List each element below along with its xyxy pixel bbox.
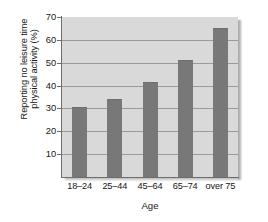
y-axis-tick-labels: 70605040302010 [10, 0, 56, 222]
y-tick-mark-30 [57, 108, 61, 109]
bar [72, 107, 87, 177]
y-tick-mark-60 [57, 40, 61, 41]
bar [143, 82, 158, 177]
bar-chart-figure: Reporting no leisure time physical activ… [0, 0, 268, 222]
y-tick-label-20: 20 [16, 125, 56, 136]
bar [213, 28, 228, 177]
gridline-50 [62, 63, 238, 64]
y-tick-mark-20 [57, 131, 61, 132]
y-tick-mark-40 [57, 86, 61, 87]
y-tick-label-60: 60 [16, 34, 56, 45]
y-tick-label-10: 10 [16, 148, 56, 159]
y-tick-mark-70 [57, 17, 61, 18]
bar [178, 60, 193, 177]
bar [107, 99, 122, 177]
y-tick-label-30: 30 [16, 102, 56, 113]
plot-area-shadow [238, 20, 242, 180]
y-tick-mark-10 [57, 154, 61, 155]
y-tick-label-40: 40 [16, 80, 56, 91]
x-tick-label: over 75 [195, 181, 245, 191]
gridline-60 [62, 40, 238, 41]
y-tick-label-50: 50 [16, 57, 56, 68]
plot-area [62, 17, 238, 177]
x-axis-title: Age [62, 200, 238, 211]
x-axis-spine [61, 177, 239, 178]
y-tick-mark-50 [57, 63, 61, 64]
y-tick-label-70: 70 [16, 11, 56, 22]
